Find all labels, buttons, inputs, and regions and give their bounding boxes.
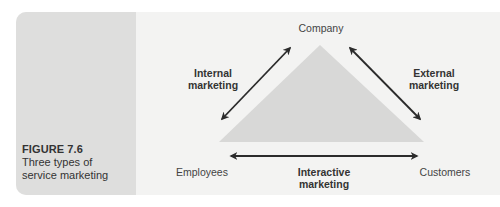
external-marketing-line1: External xyxy=(404,67,464,79)
external-marketing-line2: marketing xyxy=(404,79,464,91)
internal-marketing-line2: marketing xyxy=(185,79,241,91)
interactive-marketing-label: Interactive marketing xyxy=(292,166,356,190)
interactive-marketing-line2: marketing xyxy=(292,178,356,190)
node-employees: Employees xyxy=(172,166,232,178)
node-customers: Customers xyxy=(414,166,476,178)
internal-marketing-line1: Internal xyxy=(185,67,241,79)
marketing-triangle xyxy=(219,45,424,142)
internal-marketing-label: Internal marketing xyxy=(185,67,241,91)
external-marketing-text: External marketing xyxy=(404,67,464,91)
interactive-marketing-line1: Interactive xyxy=(292,166,356,178)
node-company: Company xyxy=(295,22,347,34)
